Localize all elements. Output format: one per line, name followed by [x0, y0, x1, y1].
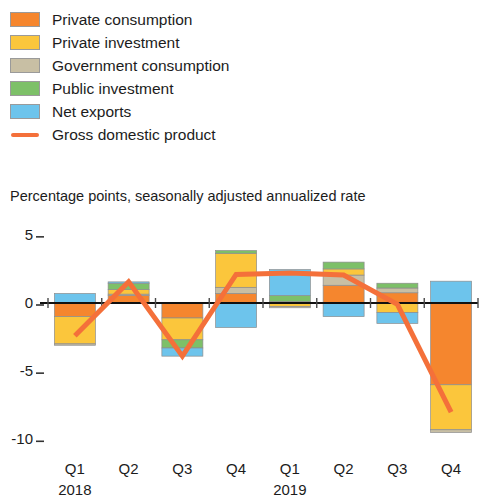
x-axis-tick-label: Q1	[280, 460, 300, 477]
bar-segment	[162, 340, 203, 348]
bar-segment	[216, 303, 257, 328]
bar-segment	[323, 262, 364, 269]
bar-segment	[269, 306, 310, 307]
bar-segment	[54, 344, 95, 345]
y-axis-tick-label: 5	[25, 226, 33, 243]
bar-segment	[323, 303, 364, 317]
bar-segment	[54, 303, 95, 317]
x-axis-tick-label: Q4	[226, 460, 246, 477]
bar-segment	[216, 251, 257, 254]
chart-plot-area: 50-5-10Q1Q2Q3Q4Q1Q2Q3Q420182019	[0, 0, 485, 501]
x-axis-tick-label: Q1	[65, 460, 85, 477]
x-axis-tick-label: Q2	[119, 460, 139, 477]
x-axis-tick-label: Q2	[334, 460, 354, 477]
stacked-bar-chart: 50-5-10Q1Q2Q3Q4Q1Q2Q3Q420182019	[0, 0, 485, 501]
bar-segment	[377, 313, 418, 324]
bar-segment	[216, 253, 257, 287]
bar-segment	[323, 285, 364, 303]
bar-segment	[431, 430, 472, 433]
x-axis-year-label: 2018	[58, 481, 91, 498]
x-axis-year-label: 2019	[273, 481, 306, 498]
bar-segment	[377, 288, 418, 293]
y-axis-tick-label: -5	[20, 362, 33, 379]
x-axis-tick-label: Q3	[172, 460, 192, 477]
x-axis-tick-label: Q3	[387, 460, 407, 477]
bar-segment	[431, 303, 472, 385]
bar-segment	[54, 293, 95, 303]
y-axis-tick-label: 0	[25, 294, 33, 311]
x-axis-tick-label: Q4	[441, 460, 461, 477]
bar-segment	[162, 303, 203, 318]
bar-segment	[431, 281, 472, 303]
y-axis-tick-label: -10	[11, 430, 33, 447]
bar-segment	[269, 296, 310, 302]
bars-layer	[54, 251, 471, 433]
bar-segment	[377, 283, 418, 288]
